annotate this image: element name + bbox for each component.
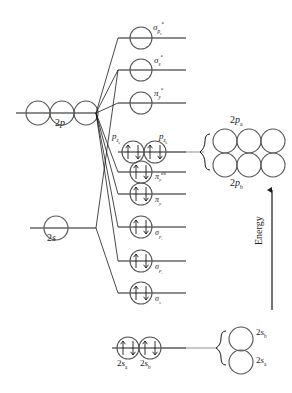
mo-label-sigma-s: σs: [155, 295, 161, 305]
mo-label-sigma-pz: σpz: [155, 263, 162, 275]
right-2s-block: [216, 327, 253, 374]
mo-label-sigma-px: σpx: [155, 229, 163, 241]
mo-label-pi-y-star: πy*: [154, 88, 163, 100]
filled-orbitals: [122, 141, 204, 304]
mo-label-sigma-px-star: σpx*: [153, 22, 164, 36]
inline-label-2sb: 2sb: [140, 359, 151, 370]
diagram-vector-layer: [0, 0, 292, 393]
atomic-level-2s: [30, 216, 96, 240]
right-label-2sb: 2sb: [256, 328, 267, 339]
mo-label-pi-y: πy: [155, 196, 161, 206]
atomic-label-2p: 2p: [55, 118, 65, 128]
right-label-2pb: 2pb: [230, 178, 243, 191]
mo-level-lines: [118, 38, 186, 293]
energy-axis-label: Energy: [253, 216, 264, 245]
atomic-label-2s: 2s: [47, 233, 56, 243]
mo-label-sigma-s-star: σs*: [154, 55, 163, 67]
mo-diagram-canvas: 2p 2s σpx* σs* πy* πynb πy σpx σpz σs pz…: [0, 0, 292, 393]
right-label-2sa: 2sa: [256, 356, 266, 367]
inline-label-2sa: 2sa: [117, 359, 127, 370]
inline-label-pza: pza: [112, 132, 120, 145]
bottom-2s-level: [112, 337, 216, 359]
inline-label-pzb: pzb: [159, 132, 167, 145]
mo-label-pi-y-nb: πynb: [155, 172, 166, 183]
right-2p-block: [200, 129, 285, 177]
right-label-2pa: 2pa: [230, 115, 243, 128]
